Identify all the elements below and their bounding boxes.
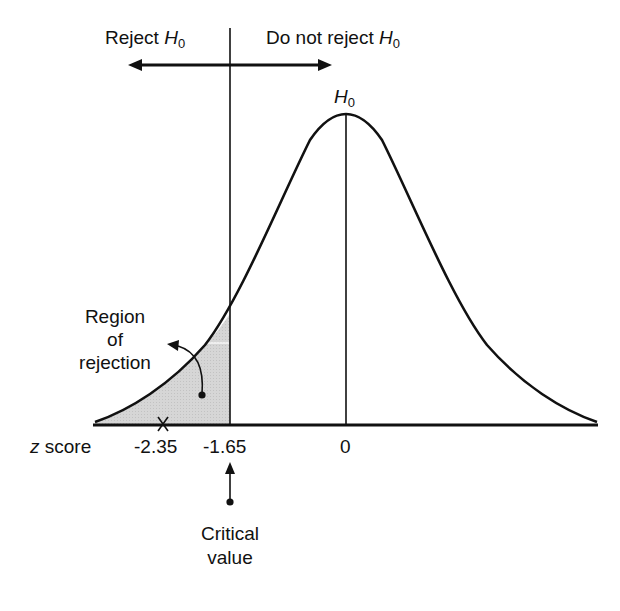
region-of-rejection-label: Region of rejection: [60, 305, 170, 374]
tick-label-zero: 0: [340, 436, 351, 458]
h0-peak-label: H0: [334, 86, 355, 114]
reject-label: Reject H0: [105, 27, 185, 55]
tick-label-neg-2-35: -2.35: [134, 436, 177, 458]
z-score-axis-label: z score: [30, 436, 91, 458]
do-not-reject-label: Do not reject H0: [266, 27, 400, 55]
critical-value-label: Critical value: [180, 522, 280, 570]
tick-label-neg-1-65: -1.65: [203, 436, 246, 458]
critical-pointer-arrow: [225, 462, 235, 506]
